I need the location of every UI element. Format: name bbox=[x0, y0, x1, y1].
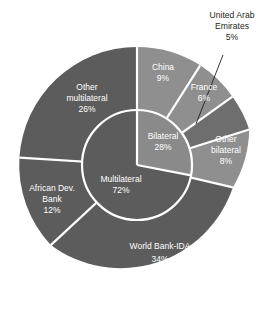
label-african-dev-bank-line1: African Dev. bbox=[29, 183, 75, 193]
label-uae-name-line2: Emirates bbox=[215, 21, 249, 31]
label-uae-value: 5% bbox=[226, 32, 239, 42]
donut-chart: China 9% France 6% United Arab Emirates … bbox=[0, 0, 276, 315]
label-african-dev-bank-line2: Bank bbox=[42, 194, 62, 204]
label-other-multilateral-value: 26% bbox=[78, 104, 95, 114]
label-china-name: China bbox=[152, 62, 174, 72]
label-other-bilateral-line2: bilateral bbox=[211, 145, 241, 155]
label-world-bank-ida-value: 34% bbox=[151, 254, 168, 264]
label-bilateral-value: 28% bbox=[154, 142, 171, 152]
label-bilateral-name: Bilateral bbox=[148, 131, 179, 141]
label-other-bilateral-value: 8% bbox=[220, 156, 233, 166]
label-other-multilateral-line2: multilateral bbox=[66, 93, 107, 103]
label-multilateral-name: Multilateral bbox=[100, 174, 141, 184]
nested-donut-svg: China 9% France 6% United Arab Emirates … bbox=[0, 0, 276, 315]
inner-pie bbox=[82, 110, 192, 220]
label-france-value: 6% bbox=[198, 93, 211, 103]
label-other-multilateral-line1: Other bbox=[76, 82, 97, 92]
label-france-name: France bbox=[191, 82, 218, 92]
label-uae-name-line1: United Arab bbox=[210, 10, 255, 20]
label-african-dev-bank-value: 12% bbox=[43, 205, 60, 215]
label-other-bilateral-line1: Other bbox=[215, 134, 236, 144]
label-world-bank-ida-name: World Bank-IDA bbox=[130, 241, 191, 251]
label-multilateral-value: 72% bbox=[112, 185, 129, 195]
label-china-value: 9% bbox=[157, 73, 170, 83]
